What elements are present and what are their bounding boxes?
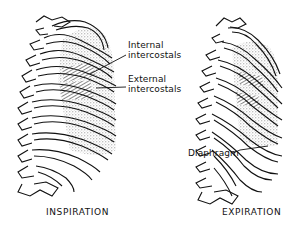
- label-diaphragm: Diaphragm: [188, 148, 239, 158]
- label-external-intercostals: External intercostals: [128, 74, 181, 94]
- inspiration-ribcage: [18, 16, 116, 196]
- expiration-ribcage: [196, 18, 282, 204]
- caption-inspiration: INSPIRATION: [46, 207, 109, 217]
- label-line: External: [128, 74, 181, 84]
- caption-expiration: EXPIRATION: [222, 207, 281, 217]
- label-line: Internal: [128, 40, 181, 50]
- label-internal-intercostals: Internal intercostals: [128, 40, 181, 60]
- label-line: intercostals: [128, 84, 181, 94]
- label-line: Diaphragm: [188, 148, 239, 158]
- label-line: intercostals: [128, 50, 181, 60]
- ribcage-diagram: [0, 0, 295, 230]
